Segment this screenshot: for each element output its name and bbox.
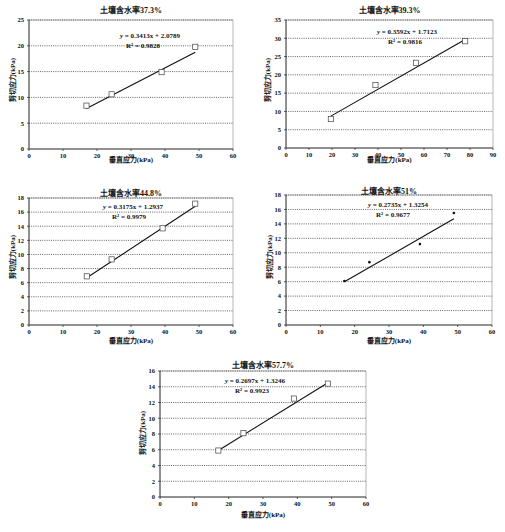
x-tick-label: 30 [386,328,393,335]
data-point [84,103,89,108]
y-axis-label: 剪切应力(kPa) [7,40,17,120]
trendline-equation: y = 0.2697x + 1.3246 [225,377,285,385]
chart-44-8: 0246810121416180102030405060 土壤含水率44.8% … [0,160,250,340]
x-tick-label: 20 [351,328,358,335]
y-tick-label: 6 [278,278,282,285]
r-squared-label: R² = 0.9979 [112,213,146,221]
x-tick-label: 60 [489,328,496,335]
data-point [343,280,346,283]
trendline-equation: y = 0.2735x + 1.3254 [368,201,428,209]
y-axis-label: 剪切应力(kPa) [262,40,272,120]
data-point [413,60,418,65]
y-tick-label: 4 [278,292,282,299]
x-tick-label: 20 [225,500,232,507]
trendline-equation: y = 0.3413x + 2.0789 [120,32,180,40]
y-tick-label: 16 [149,367,156,374]
y-tick-label: 10 [18,251,25,258]
r-squared-label: R² = 0.9816 [388,38,422,46]
y-tick-label: 0 [152,493,155,500]
chart-37-3: 05101520250102030405060 土壤含水率37.3% y = 0… [0,0,250,165]
x-tick-label: 10 [191,500,198,507]
chart-title: 土壤含水率44.8% [29,187,233,198]
y-tick-label: 5 [278,126,282,133]
x-tick-label: 30 [128,328,135,335]
y-tick-label: 20 [275,71,282,78]
data-point [419,243,422,246]
data-point [109,92,114,97]
data-point [291,396,296,401]
y-tick-label: 8 [278,264,282,271]
y-tick-label: 12 [275,235,282,242]
data-point [216,448,221,453]
data-point [373,82,378,87]
chart-39-3: 051015202530350102030405060708090 土壤含水率3… [255,0,505,165]
x-tick-label: 0 [27,328,30,335]
x-tick-label: 50 [328,500,335,507]
data-point [159,70,164,75]
y-tick-label: 8 [152,430,156,437]
y-tick-label: 16 [18,208,25,215]
x-tick-label: 10 [60,328,67,335]
y-tick-label: 2 [152,478,155,485]
y-tick-label: 14 [275,220,282,227]
y-tick-label: 10 [275,249,282,256]
r-squared-label: R² = 0.9828 [126,42,160,50]
x-tick-label: 50 [196,328,203,335]
y-tick-label: 6 [21,279,25,286]
y-tick-label: 4 [21,293,25,300]
y-tick-label: 25 [18,16,25,23]
y-axis-label: 剪切应力(kPa) [264,217,274,297]
x-tick-label: 0 [158,500,161,507]
chart-title: 土壤含水率39.3% [286,4,493,15]
data-point [328,117,333,122]
x-tick-label: 60 [363,500,370,507]
y-tick-label: 15 [275,89,282,96]
trendline-equation: y = 0.3592x + 1.7123 [377,28,437,36]
data-point [241,431,246,436]
y-tick-label: 0 [21,321,24,328]
r-squared-label: R² = 0.9677 [376,211,410,219]
y-tick-label: 10 [18,94,25,101]
x-tick-label: 30 [260,500,267,507]
y-tick-label: 0 [21,145,24,152]
y-tick-label: 25 [275,53,282,60]
data-point [463,39,468,44]
x-tick-label: 40 [420,328,427,335]
r-squared-label: R² = 0.9923 [235,387,269,395]
y-tick-label: 0 [278,144,281,151]
y-tick-label: 15 [18,68,25,75]
y-tick-label: 16 [275,206,282,213]
chart-title: 土壤含水率57.7% [160,359,366,370]
data-point [325,381,330,386]
y-tick-label: 2 [21,307,24,314]
y-tick-label: 10 [275,108,282,115]
x-axis-label: 垂直应力(kPa) [160,509,366,519]
y-tick-label: 14 [18,223,25,230]
chart-title: 土壤含水率37.3% [29,4,233,15]
y-tick-label: 12 [18,237,25,244]
y-tick-label: 2 [278,307,281,314]
y-tick-label: 20 [18,42,25,49]
y-tick-label: 12 [149,399,156,406]
x-tick-label: 20 [94,328,101,335]
x-tick-label: 50 [454,328,461,335]
data-point [109,257,114,262]
y-tick-label: 30 [275,35,282,42]
x-tick-label: 0 [284,328,287,335]
y-tick-label: 5 [21,120,25,127]
y-tick-label: 18 [18,194,25,201]
x-tick-label: 40 [162,328,169,335]
y-tick-label: 8 [21,265,25,272]
y-tick-label: 35 [275,16,282,23]
x-tick-label: 60 [230,328,237,335]
data-point [368,261,371,264]
data-point [84,274,89,279]
y-tick-label: 10 [149,415,156,422]
chart-51: 0246810121416180102030405060 土壤含水率51% y … [255,160,505,340]
y-tick-label: 18 [275,191,282,198]
x-tick-label: 40 [294,500,301,507]
data-point [453,212,456,215]
y-tick-label: 0 [278,321,281,328]
y-tick-label: 6 [152,446,156,453]
chart-57-7: 02468101214160102030405060 土壤含水率57.7% y … [120,340,390,532]
